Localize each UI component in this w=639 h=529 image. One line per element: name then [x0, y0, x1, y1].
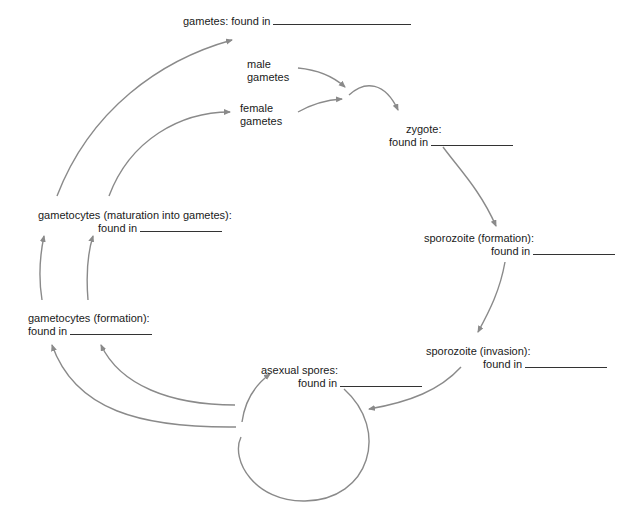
answer-blank-gametocytes-maturation[interactable]: [140, 222, 222, 232]
arrow-zygote-to-sporozoite-formation: [443, 147, 496, 226]
node-gametocytes-formation: gametocytes (formation): found in: [28, 312, 152, 338]
node-gametocytes-maturation: gametocytes (maturation into gametes): f…: [38, 209, 232, 235]
answer-blank-sporozoite-formation[interactable]: [533, 245, 615, 255]
diagram-title: gametes: found in: [183, 15, 411, 28]
answer-blank-gametes[interactable]: [273, 15, 411, 25]
answer-blank-gametocytes-formation[interactable]: [70, 325, 152, 335]
arrow-female-to-zygote: [298, 99, 342, 112]
arrow-asexual-loop: [238, 389, 369, 501]
arrow-formation-to-maturation-right: [87, 236, 93, 300]
node-zygote: zygote: found in: [389, 123, 513, 149]
arrow-junction-to-zygote: [349, 86, 398, 110]
answer-blank-asexual-spores[interactable]: [340, 377, 422, 387]
answer-blank-zygote[interactable]: [431, 136, 513, 146]
arrow-formation-to-maturation-left: [40, 236, 44, 300]
node-sporozoite-formation: sporozoite (formation): found in: [424, 232, 615, 258]
arrow-asexual-to-formation-inner: [101, 345, 235, 405]
arrow-maturation-to-male: [57, 40, 232, 196]
arrow-formation-to-invasion: [478, 262, 505, 332]
lifecycle-arrows: [0, 0, 639, 529]
node-female-gametes: female gametes: [240, 102, 282, 128]
node-asexual-spores: asexual spores: found in: [261, 364, 422, 390]
arrow-asexual-to-formation-outer: [52, 345, 236, 427]
answer-blank-sporozoite-invasion[interactable]: [525, 358, 607, 368]
node-male-gametes: male gametes: [247, 58, 289, 84]
arrow-maturation-to-female: [109, 112, 230, 196]
arrow-male-to-zygote: [298, 68, 345, 87]
node-sporozoite-invasion: sporozoite (invasion): found in: [426, 345, 607, 371]
